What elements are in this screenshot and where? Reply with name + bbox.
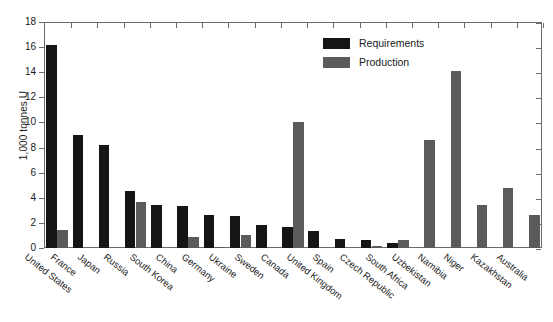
y-axis-tick <box>39 248 44 249</box>
bar-chart: 1,000 tonnes U United StatesFranceJapanR… <box>0 0 553 322</box>
x-axis-label: Namibia <box>416 252 449 281</box>
x-axis-tick <box>543 23 544 28</box>
bar-requirements <box>282 227 293 248</box>
y-axis-tick <box>39 198 44 199</box>
legend-item: Production <box>323 56 424 68</box>
y-tick-label: 6 <box>6 168 36 178</box>
bar-production <box>477 205 488 248</box>
bar-requirements <box>151 205 162 248</box>
bar-requirements <box>387 243 398 248</box>
y-axis-tick <box>39 223 44 224</box>
legend-swatch-icon <box>323 57 350 68</box>
y-axis-tick <box>39 122 44 123</box>
y-tick-label: 18 <box>6 17 36 27</box>
bar-requirements <box>99 145 110 248</box>
bar-production <box>241 235 252 248</box>
bar-production <box>424 140 435 248</box>
bars-layer <box>44 22 542 248</box>
bar-requirements <box>204 215 215 248</box>
x-axis-label: United Kingdom <box>285 252 344 301</box>
y-tick-label: 12 <box>6 92 36 102</box>
x-axis-label: Spain <box>312 252 337 274</box>
legend-swatch-icon <box>323 38 350 49</box>
x-axis-label: Canada <box>259 252 291 280</box>
y-tick-label: 8 <box>6 143 36 153</box>
y-axis-tick <box>39 22 44 23</box>
y-axis-tick <box>39 47 44 48</box>
bar-requirements <box>177 206 188 248</box>
x-axis-label: South Korea <box>128 252 175 292</box>
legend-label: Requirements <box>359 38 424 49</box>
y-tick-label: 14 <box>6 67 36 77</box>
x-axis-label: South Africa <box>364 252 410 291</box>
x-axis-label: Uzbekistan <box>390 252 433 288</box>
x-axis-label: Niger <box>443 252 467 273</box>
bar-requirements <box>230 216 241 248</box>
bar-requirements <box>361 240 372 248</box>
x-axis-label: Germany <box>181 252 218 284</box>
bar-production <box>529 215 540 248</box>
y-axis-tick <box>39 97 44 98</box>
x-axis-label: United States <box>23 252 74 295</box>
x-axis-label: Russia <box>102 252 131 277</box>
bar-production <box>188 237 199 248</box>
x-axis-label: Australia <box>495 252 530 282</box>
bar-production <box>372 246 383 249</box>
bar-requirements <box>125 191 136 248</box>
bar-production <box>398 240 409 248</box>
legend-label: Production <box>359 57 409 68</box>
x-axis-label: France <box>49 252 78 278</box>
chart-legend: RequirementsProduction <box>323 37 424 75</box>
bar-requirements <box>335 239 346 248</box>
bar-requirements <box>73 135 84 248</box>
x-axis-label: Czech Republic <box>338 252 396 300</box>
bar-production <box>451 71 462 248</box>
legend-item: Requirements <box>323 37 424 49</box>
y-tick-label: 2 <box>6 218 36 228</box>
x-axis-label: Sweden <box>233 252 266 281</box>
bar-production <box>215 247 226 248</box>
bar-production <box>503 188 514 248</box>
y-axis-tick-right <box>536 249 541 250</box>
x-axis-label: China <box>154 252 179 275</box>
bar-production <box>57 230 68 248</box>
y-axis-tick <box>39 72 44 73</box>
y-tick-label: 16 <box>6 42 36 52</box>
bar-production <box>293 122 304 248</box>
bar-requirements <box>46 45 57 248</box>
bar-production <box>136 202 147 248</box>
y-tick-label: 0 <box>6 243 36 253</box>
y-tick-label: 10 <box>6 117 36 127</box>
bar-requirements <box>308 231 319 248</box>
x-axis-label: Ukraine <box>207 252 239 280</box>
bar-requirements <box>256 225 267 248</box>
y-tick-label: 4 <box>6 193 36 203</box>
x-axis-label: Japan <box>76 252 102 275</box>
y-axis-tick <box>39 148 44 149</box>
x-axis-label: Kazakhstan <box>469 252 514 290</box>
y-axis-tick <box>39 173 44 174</box>
